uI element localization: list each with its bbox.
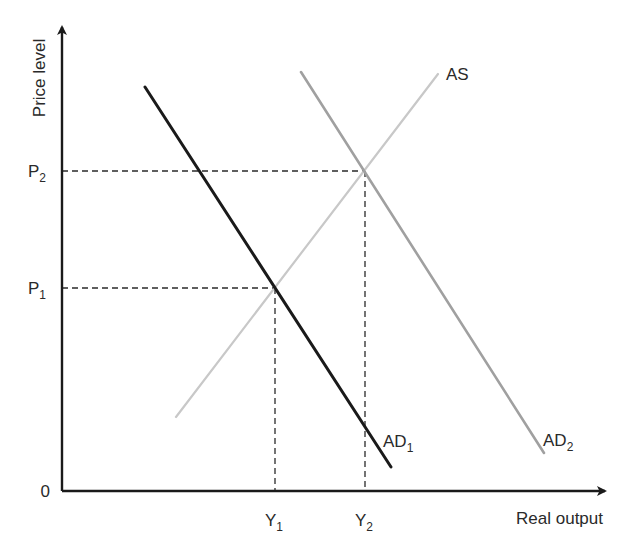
tick-labels: P1P2Y1Y2 bbox=[28, 162, 373, 534]
ad2-label: AD2 bbox=[543, 431, 574, 454]
y-tick-p1: P1 bbox=[28, 279, 46, 302]
equilibrium-guides bbox=[62, 171, 365, 491]
as-label: AS bbox=[446, 65, 469, 84]
ad-as-chart: Price level Real output 0 P1P2Y1Y2 ASAD1… bbox=[0, 0, 629, 548]
origin-label: 0 bbox=[41, 482, 50, 501]
ad2-curve bbox=[301, 72, 544, 453]
curves bbox=[145, 72, 544, 467]
x-tick-y2: Y2 bbox=[355, 511, 373, 534]
y-axis-label: Price level bbox=[30, 39, 49, 117]
ad1-label: AD1 bbox=[383, 432, 414, 455]
as-curve bbox=[176, 74, 438, 417]
curve-labels: ASAD1AD2 bbox=[383, 65, 574, 455]
x-axis-label: Real output bbox=[516, 509, 603, 528]
y-tick-p2: P2 bbox=[28, 162, 46, 185]
x-tick-y1: Y1 bbox=[265, 511, 283, 534]
